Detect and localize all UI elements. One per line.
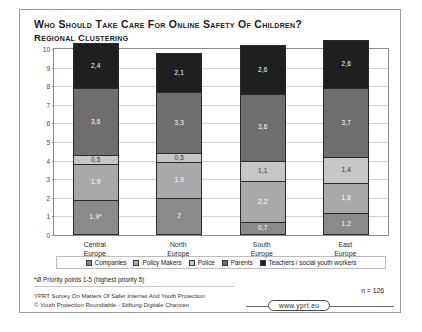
x-axis-category-label: CentralEurope [60, 240, 130, 258]
bar-segment: 1,1 [240, 161, 286, 181]
bar-segment-value: 1,2 [341, 221, 351, 228]
y-axis-tick-label: 4 [46, 157, 50, 164]
bar-segment-value: 1,1 [258, 168, 268, 175]
y-axis-tick-label: 7 [46, 101, 50, 108]
x-axis-category-label: SouthEurope [227, 240, 297, 258]
bar-segment: 2,6 [240, 45, 286, 93]
credits: YPRT Survey On Matters Of Safer Internet… [34, 292, 205, 311]
bar-segment-value: 1,6 [341, 195, 351, 202]
bar-segment: 1,4 [323, 157, 369, 183]
y-axis-tick-label: 1 [46, 213, 50, 220]
bar-segment-value: 3,6 [258, 124, 268, 131]
y-axis-tick-label: 2 [46, 194, 50, 201]
y-axis-tick-label: 10 [43, 46, 50, 53]
legend-item[interactable]: Companies [86, 259, 127, 266]
legend-label: Companies [95, 259, 127, 266]
y-axis-tick-mark [52, 49, 54, 50]
legend-item[interactable]: Police [189, 259, 215, 266]
x-axis-category-label: NorthEurope [143, 240, 213, 258]
bar-segment-value: 1,4 [341, 167, 351, 174]
bar-segment: 0,5 [156, 153, 202, 162]
y-axis-tick-mark [52, 216, 54, 217]
credit-line-1: YPRT Survey On Matters Of Safer Internet… [34, 292, 205, 301]
chart-plot-area: 0123456789102,43,60,51,91,9*2,13,30,51,9… [53, 48, 389, 236]
bar-segment: 2,4 [73, 43, 119, 88]
bar-segment: 1,9 [156, 162, 202, 197]
bar-segment: 1,6 [323, 183, 369, 213]
legend-item[interactable]: Teachers / social youth workers [260, 259, 357, 266]
bar-segment-value: 2,2 [258, 199, 268, 206]
legend-label: Policy Makers [142, 259, 181, 266]
bar-segment-value: 2,6 [341, 61, 351, 68]
y-axis-tick-label: 3 [46, 176, 50, 183]
y-axis-tick-mark [52, 198, 54, 199]
legend-label: Teachers / social youth workers [269, 259, 357, 266]
y-axis-tick-mark [52, 86, 54, 87]
bar-segment-value: 2,1 [174, 70, 184, 77]
legend-swatch-icon [133, 260, 139, 266]
y-axis-tick-label: 5 [46, 139, 50, 146]
y-axis-tick-mark [52, 179, 54, 180]
bar-stack: 2,63,61,12,20,7 [240, 45, 286, 235]
x-axis-category-line: Central [60, 240, 130, 249]
y-axis-tick-mark [52, 235, 54, 236]
bar-segment-value: 0,5 [174, 155, 184, 162]
bar-segment: 3,7 [323, 88, 369, 157]
x-axis-category-line: Europe [310, 249, 380, 258]
bar-segment-value: 1,9* [90, 214, 102, 221]
bar-segment: 3,6 [240, 94, 286, 161]
bar-segment-value: 2,6 [258, 67, 268, 74]
legend-swatch-icon [86, 260, 92, 266]
bar-segment-value: 2 [177, 213, 181, 220]
bar-segment: 1,2 [323, 213, 369, 235]
y-axis-tick-mark [52, 161, 54, 162]
x-axis-category-line: Europe [143, 249, 213, 258]
bar-stack: 2,63,71,41,61,2 [323, 40, 369, 235]
y-axis-tick-label: 6 [46, 120, 50, 127]
bar-segment: 1,9* [73, 200, 119, 235]
bar-segment-value: 1,9 [174, 177, 184, 184]
bar-segment: 0,5 [73, 155, 119, 164]
x-axis-category-label: EastEurope [310, 240, 380, 258]
legend-swatch-icon [189, 260, 195, 266]
bar-segment-value: 3,7 [341, 120, 351, 127]
bar-segment-value: 1,9 [91, 179, 101, 186]
legend-item[interactable]: Policy Makers [133, 259, 181, 266]
bar-segment-value: 3,3 [174, 120, 184, 127]
sample-size-label: n = 126 [361, 287, 384, 294]
url-badge[interactable]: www.yprt.eu [268, 300, 330, 311]
legend-swatch-icon [222, 260, 228, 266]
bar-segment: 2 [156, 198, 202, 235]
y-axis-tick-mark [52, 123, 54, 124]
x-axis-category-line: Europe [60, 249, 130, 258]
bar-segment: 3,6 [73, 88, 119, 155]
bar-segment: 2,1 [156, 53, 202, 92]
bar-segment-value: 0,7 [258, 225, 268, 232]
y-axis-tick-label: 8 [46, 83, 50, 90]
y-axis-tick-mark [52, 142, 54, 143]
legend-item[interactable]: Parents [222, 259, 253, 266]
x-axis-category-line: North [143, 240, 213, 249]
bar-stack: 2,13,30,51,92 [156, 53, 202, 235]
y-axis-tick-mark [52, 105, 54, 106]
bar-segment: 1,9 [73, 164, 119, 199]
page-title: Who Should Take Care For Online Safety O… [34, 18, 302, 30]
footnote: *Ø Priority points 1-5 (highest priority… [34, 276, 234, 287]
footnote-text: *Ø Priority points 1-5 (highest priority… [34, 276, 234, 287]
bar-segment-value: 0,5 [91, 157, 101, 164]
x-axis-category-line: South [227, 240, 297, 249]
credit-line-2: © Youth Protection Roundtable - Stiftung… [34, 301, 205, 310]
y-axis-tick-mark [52, 68, 54, 69]
bar-segment-value: 3,6 [91, 119, 101, 126]
legend-label: Parents [231, 259, 253, 266]
legend-label: Police [198, 259, 215, 266]
bar-segment: 2,6 [323, 40, 369, 88]
bar-segment: 3,3 [156, 92, 202, 153]
x-axis-category-line: East [310, 240, 380, 249]
y-axis-tick-label: 0 [46, 232, 50, 239]
legend-swatch-icon [260, 260, 266, 266]
bar-segment: 2,2 [240, 181, 286, 222]
y-axis-tick-label: 9 [46, 64, 50, 71]
bar-stack: 2,43,60,51,91,9* [73, 43, 119, 235]
bar-segment-value: 2,4 [91, 63, 101, 70]
